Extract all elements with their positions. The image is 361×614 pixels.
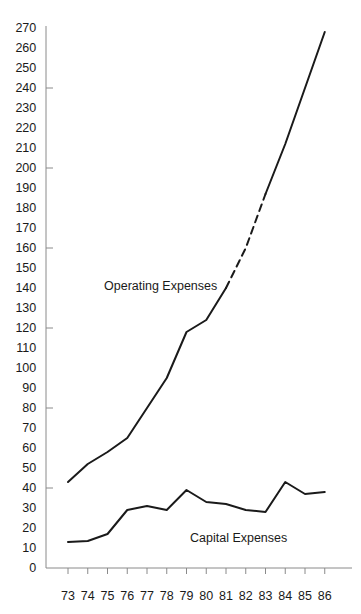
series-label-operating-expenses: Operating Expenses xyxy=(104,279,217,293)
plot-area xyxy=(0,0,361,614)
series-label-capital-expenses: Capital Expenses xyxy=(190,531,287,545)
series-line-operating-expenses-dashed xyxy=(226,194,266,288)
line-chart: 2702602502402302202102001901801701601501… xyxy=(0,0,361,614)
axis-lines xyxy=(46,26,352,574)
series-line-operating-expenses-solid-left xyxy=(68,288,226,482)
series-line-operating-expenses-solid-right xyxy=(266,32,325,194)
